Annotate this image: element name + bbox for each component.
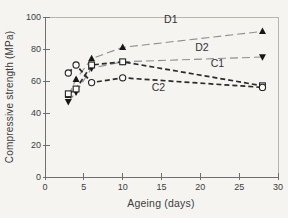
x-tick-label: 10 xyxy=(118,182,128,192)
marker-triangle-down-filled xyxy=(65,99,72,106)
compressive-strength-figure: 020406080100051015202530D1D2C1C2 Ageing … xyxy=(0,0,288,218)
axes-lines xyxy=(45,17,278,177)
y-tick-label: 0 xyxy=(36,172,41,182)
marker-square-open xyxy=(120,59,126,65)
y-tick-label: 100 xyxy=(26,12,41,22)
series-label-C1: C1 xyxy=(211,57,225,69)
series-label-C2: C2 xyxy=(152,81,166,93)
marker-circle-open xyxy=(65,70,71,76)
x-tick-label: 0 xyxy=(42,182,47,192)
marker-square-open xyxy=(89,62,95,68)
marker-square-open xyxy=(65,91,71,97)
marker-circle-open xyxy=(259,84,265,90)
x-tick-label: 15 xyxy=(156,182,166,192)
y-axis-title: Compressive strength (MPa) xyxy=(4,31,15,163)
y-tick-label: 40 xyxy=(31,108,41,118)
marker-circle-open xyxy=(120,75,126,81)
x-tick-label: 30 xyxy=(273,182,283,192)
line-chart-canvas: 020406080100051015202530D1D2C1C2 xyxy=(0,0,288,218)
series-label-D2: D2 xyxy=(195,41,209,53)
y-tick-label: 60 xyxy=(31,76,41,86)
y-tick-label: 20 xyxy=(31,140,41,150)
marker-circle-open xyxy=(73,62,79,68)
x-tick-label: 5 xyxy=(81,182,86,192)
series-label-D1: D1 xyxy=(164,13,178,25)
marker-square-open xyxy=(73,86,79,92)
marker-triangle-up-filled xyxy=(73,76,80,83)
marker-triangle-up-filled xyxy=(88,55,95,62)
plot-frame xyxy=(45,17,278,177)
x-axis-title: Ageing (days) xyxy=(127,197,194,209)
x-tick-label: 25 xyxy=(234,182,244,192)
y-tick-label: 80 xyxy=(31,44,41,54)
marker-circle-open xyxy=(89,80,95,86)
series-line-C1 xyxy=(68,62,262,94)
x-tick-label: 20 xyxy=(195,182,205,192)
marker-triangle-up-filled xyxy=(259,28,266,34)
